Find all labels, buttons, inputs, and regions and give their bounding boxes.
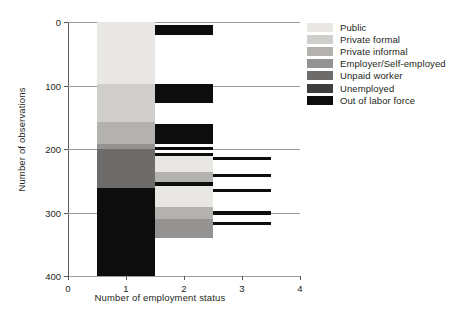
legend-label: Unpaid worker — [340, 70, 403, 81]
y-tick-label: 0 — [56, 17, 61, 28]
y-tick-mark — [64, 213, 68, 214]
bar-segment — [97, 188, 155, 276]
legend-item: Out of labor force — [307, 94, 467, 106]
bar-segment — [155, 186, 213, 207]
legend-swatch — [307, 23, 333, 32]
bar-segment — [97, 22, 155, 84]
y-tick-label: 400 — [45, 271, 61, 282]
x-axis-title: Number of employment status — [20, 292, 300, 303]
legend-swatch — [307, 96, 333, 105]
bar-segment — [213, 174, 271, 177]
legend-swatch — [307, 35, 333, 44]
bar-segment — [213, 222, 271, 225]
x-tick-label: 0 — [65, 283, 70, 294]
chart-figure: Number of observations Number of employm… — [0, 0, 471, 312]
legend-label: Public — [340, 22, 366, 33]
legend-label: Employer/Self-employed — [340, 58, 446, 69]
bar-segment — [155, 84, 213, 103]
y-tick-mark — [64, 22, 68, 23]
bar-segment — [155, 172, 213, 182]
y-tick-label: 100 — [45, 80, 61, 91]
legend-item: Unpaid worker — [307, 70, 467, 82]
y-tick-mark — [64, 149, 68, 150]
plot-area: 0100200300400 01234 — [68, 22, 300, 276]
bar-segment — [97, 149, 155, 188]
x-tick-label: 1 — [123, 283, 128, 294]
x-tick-label: 3 — [239, 283, 244, 294]
x-tick-mark — [300, 276, 301, 280]
y-tick-label: 300 — [45, 207, 61, 218]
x-tick-mark — [242, 276, 243, 280]
bar-segment — [213, 211, 271, 215]
x-tick-mark — [68, 276, 69, 280]
y-tick-mark — [64, 86, 68, 87]
bar-segment — [97, 84, 155, 122]
legend-label: Private formal — [340, 34, 400, 45]
x-tick-mark — [126, 276, 127, 280]
legend-item: Public — [307, 21, 467, 33]
bar-segment — [97, 122, 155, 144]
legend-label: Unemployed — [340, 83, 394, 94]
x-tick-label: 4 — [297, 283, 302, 294]
y-tick-label: 200 — [45, 144, 61, 155]
bar-segment — [155, 25, 213, 35]
x-tick-mark — [184, 276, 185, 280]
legend-label: Private informal — [340, 46, 408, 57]
legend: PublicPrivate formalPrivate informalEmpl… — [307, 21, 467, 106]
bar-segment — [155, 156, 213, 173]
bar-segment — [155, 219, 213, 237]
legend-swatch — [307, 47, 333, 56]
bar-segment — [155, 207, 213, 219]
bar-segment — [155, 124, 213, 144]
legend-label: Out of labor force — [340, 95, 415, 106]
y-axis-title: Number of observations — [16, 50, 27, 230]
legend-swatch — [307, 71, 333, 80]
legend-swatch — [307, 84, 333, 93]
legend-item: Employer/Self-employed — [307, 58, 467, 70]
bar-segment — [213, 157, 271, 160]
legend-item: Private formal — [307, 33, 467, 45]
bar-segment — [155, 147, 213, 150]
legend-item: Unemployed — [307, 82, 467, 94]
x-tick-label: 2 — [181, 283, 186, 294]
bar-segment — [213, 189, 271, 192]
legend-item: Private informal — [307, 45, 467, 57]
legend-swatch — [307, 59, 333, 68]
